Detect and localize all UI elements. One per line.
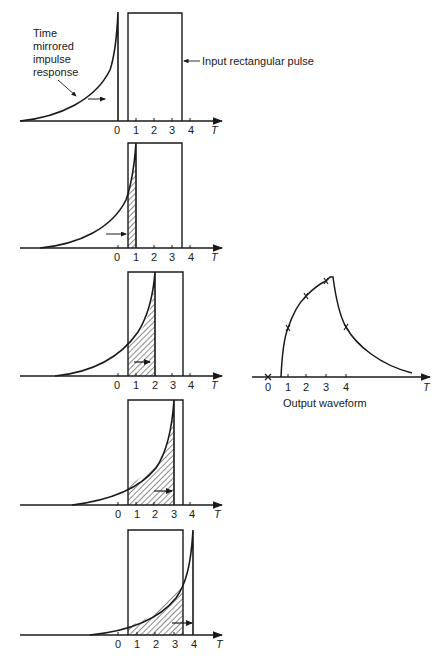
tick-2: 2 [152,379,158,391]
tick-0: 0 [114,124,120,136]
tick-3: 3 [169,251,175,263]
tick-2: 2 [153,638,159,650]
overlap-area [128,272,155,376]
tick-1: 1 [133,124,139,136]
axis-label-t: T [211,379,219,391]
output-tick-2: 2 [303,381,309,393]
tick-2: 2 [151,124,157,136]
tick-3: 3 [171,508,177,520]
impulse-leader-line [58,80,76,96]
axis-label-t: T [214,508,222,520]
tick-0: 0 [114,379,120,391]
overlap-area [128,400,174,505]
overlap-area [128,152,136,248]
tick-3: 3 [170,379,176,391]
tick-4: 4 [188,124,194,136]
output-waveform-label: Output waveform [283,397,367,409]
tick-1: 1 [133,379,139,391]
marker-x-2 [304,293,308,299]
tick-2: 2 [152,508,158,520]
impulse-label-line-4: response [33,66,78,78]
axis-label-t: T [216,638,224,650]
panel-shift-2: 0 1 2 3 4 T [20,272,222,391]
pulse-label: Input rectangular pulse [202,55,314,67]
marker-x-4 [344,324,348,330]
tick-4: 4 [189,508,195,520]
output-tick-3: 3 [323,381,329,393]
tick-2: 2 [151,251,157,263]
impulse-response-curve [40,143,136,248]
output-axis-label-t: T [423,381,431,393]
input-pulse [128,13,182,121]
impulse-label-line-3: impulse [33,53,71,65]
output-waveform-plot: 0 1 2 3 4 T Output waveform [252,277,431,409]
output-tick-0: 0 [265,381,271,393]
tick-4: 4 [191,638,197,650]
impulse-label-line-1: Time [33,27,57,39]
impulse-label-line-2: mirrored [33,40,74,52]
tick-0: 0 [115,508,121,520]
tick-3: 3 [172,638,178,650]
output-tick-1: 1 [285,381,291,393]
output-tick-4: 4 [343,381,349,393]
tick-3: 3 [169,124,175,136]
panel-shift-3: 0 1 2 3 4 T [20,400,222,520]
panel-shift-0: 0 1 2 3 4 T Time mirrored impulse respon… [20,12,314,136]
panel-shift-1: 0 1 2 3 4 T [20,143,222,263]
overlap-area [128,582,183,635]
tick-4: 4 [188,379,194,391]
axis-label-t: T [211,124,219,136]
tick-0: 0 [115,638,121,650]
tick-0: 0 [114,251,120,263]
tick-1: 1 [133,251,139,263]
tick-1: 1 [134,638,140,650]
tick-4: 4 [188,251,194,263]
axis-label-t: T [211,251,219,263]
convolution-diagram: 0 1 2 3 4 T Time mirrored impulse respon… [0,0,448,663]
tick-1: 1 [134,508,140,520]
panel-shift-4: 0 1 2 3 4 T [20,530,224,650]
